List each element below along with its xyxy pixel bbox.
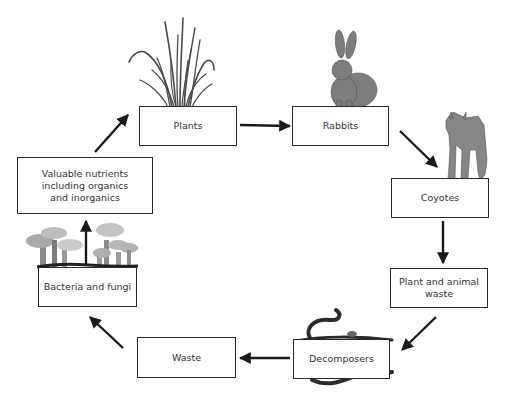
arrow-plants-to-rabbits [240, 125, 290, 126]
arrow-waste-to-bacteria [90, 317, 123, 348]
arrow-waste-to-decomposers [402, 317, 436, 350]
arrow-rabbits-to-coyotes [400, 131, 437, 167]
arrow-nutrients-to-plants [95, 115, 128, 152]
arrows-layer [0, 0, 506, 399]
